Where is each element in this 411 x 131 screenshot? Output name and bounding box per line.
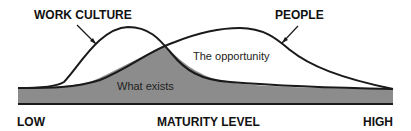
axis-high-label: HIGH bbox=[363, 115, 393, 129]
maturity-diagram: WORK CULTURE PEOPLE The opportunity What… bbox=[0, 0, 411, 131]
axis-low-label: LOW bbox=[17, 115, 45, 129]
what-exists-label: What exists bbox=[117, 80, 174, 92]
work-culture-label: WORK CULTURE bbox=[34, 8, 132, 22]
axis-title: MATURITY LEVEL bbox=[157, 115, 260, 129]
opportunity-label: The opportunity bbox=[193, 50, 269, 62]
people-label: PEOPLE bbox=[275, 8, 324, 22]
